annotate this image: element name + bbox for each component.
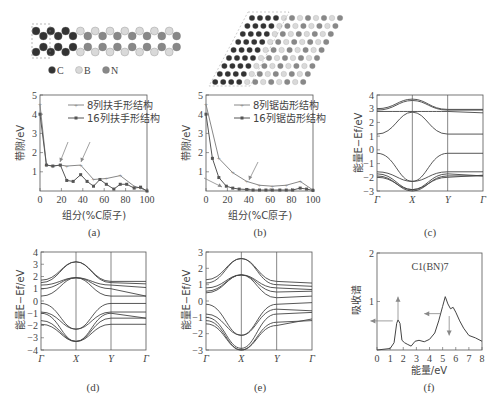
x-tick: 8 [480,353,485,364]
x-tick: 100 [306,194,321,205]
y-tick: −1 [363,158,374,169]
legend-entry: 16列锯齿形结构 [253,112,326,124]
ylabel-f: 吸收谱 [350,285,362,315]
x-tick: 7 [466,353,471,364]
ylabel-b: 带隙/eV [180,125,192,162]
armchair-ribbon-structure [32,27,181,56]
x-tick: 20 [222,194,232,205]
caption-f: (f) [424,381,435,394]
xlabel-f: 能量/eV [411,364,448,376]
caption-e: (e) [254,381,267,394]
chart-e: −3−2−10123ΓXYΓ [192,247,315,365]
y-tick: 2 [369,117,374,128]
atom-legend: CBN [49,65,119,76]
caption-c: (c) [424,226,437,239]
zigzag-sheet-structure [209,12,343,86]
y-tick: −4 [27,345,38,356]
y-tick: 3 [32,128,37,139]
x-tick: 3 [414,353,419,364]
x-tick: Y [445,194,452,205]
atom-legend-N: N [111,65,118,76]
x-tick: 60 [99,194,109,205]
x-tick: Y [108,353,115,364]
y-tick: −1 [192,312,203,323]
caption-d: (d) [87,381,100,394]
x-tick: 20 [56,194,66,205]
svg-text:+: + [118,172,122,180]
svg-text:+: + [204,101,208,109]
svg-text:+: + [104,175,108,183]
x-tick: 80 [121,194,131,205]
y-tick: 1 [369,131,374,142]
y-tick: 3 [198,128,203,139]
x-tick: 4 [427,353,432,364]
atom-legend-B: B [84,65,91,76]
x-tick: 0 [38,194,43,205]
y-tick: 2 [198,263,203,274]
x-tick: X [408,194,416,205]
svg-text:+: + [38,101,42,109]
y-tick: 0 [33,296,38,307]
svg-text:+: + [240,102,244,110]
caption-a: (a) [88,226,101,239]
y-tick: 3 [369,103,374,114]
atom-legend-C: C [57,65,64,76]
y-tick: 4 [198,109,203,120]
y-tick: 4 [369,90,374,101]
y-tick: 0 [369,144,374,155]
x-tick: 0 [375,353,380,364]
caption-b: (b) [254,226,267,239]
x-tick: 0 [204,194,209,205]
svg-text:+: + [79,162,83,170]
x-tick: 100 [140,194,155,205]
y-tick: 1 [198,166,203,177]
x-tick: Γ [142,353,149,364]
x-tick: 5 [440,353,445,364]
y-tick: −1 [27,308,38,319]
ylabel-d: 能量E−Ef/eV [14,269,26,330]
y-tick: 3 [198,247,203,258]
x-tick: Γ [373,194,380,205]
svg-text:+: + [65,163,69,171]
y-tick: 1 [198,279,203,290]
x-tick: 60 [265,194,275,205]
chart-c: −3−2−101234ΓXYΓ [363,90,486,206]
svg-text:+: + [245,178,249,186]
x-tick: X [72,353,80,364]
y-tick: 2 [369,248,374,259]
svg-text:+: + [298,178,302,186]
x-tick: Γ [37,353,44,364]
x-tick: Γ [202,353,209,364]
y-tick: 2 [33,271,38,282]
x-tick: X [237,353,245,364]
x-tick: 40 [244,194,254,205]
y-tick: 0 [198,296,203,307]
y-tick: 5 [198,90,203,101]
x-tick: 1 [388,353,393,364]
legend-entry: 16列扶手形结构 [87,112,160,124]
chart-f: 12012345678C1(BN)7 [369,248,485,365]
y-tick: 1 [369,296,374,307]
xlabel-b: 组分(%C原子) [228,209,292,221]
chart-a: 12345020406080100+++++++++++++8列扶手形结构16列… [32,90,160,206]
ylabel-e: 能量E−Ef/eV [180,269,192,330]
x-tick: Γ [308,353,315,364]
y-tick: −2 [27,320,38,331]
y-tick: −3 [192,345,203,356]
y-tick: 2 [32,147,37,158]
x-tick: 2 [401,353,406,364]
x-tick: Γ [479,194,486,205]
svg-text:+: + [74,102,78,110]
legend-entry: 8列锯齿形结构 [253,99,319,111]
ylabel-c: 能量E−Ef/eV [352,112,364,173]
x-tick: 40 [78,194,88,205]
legend-entry: 8列扶手形结构 [87,99,153,111]
y-tick: −2 [363,172,374,183]
ylabel-a: 带隙/eV [14,125,26,162]
x-tick: 6 [453,353,458,364]
y-tick: −2 [192,328,203,339]
chart-f-title: C1(BN)7 [411,261,448,273]
x-tick: 80 [287,194,297,205]
svg-text:+: + [217,155,221,163]
xlabel-a: 组分(%C原子) [62,209,126,221]
